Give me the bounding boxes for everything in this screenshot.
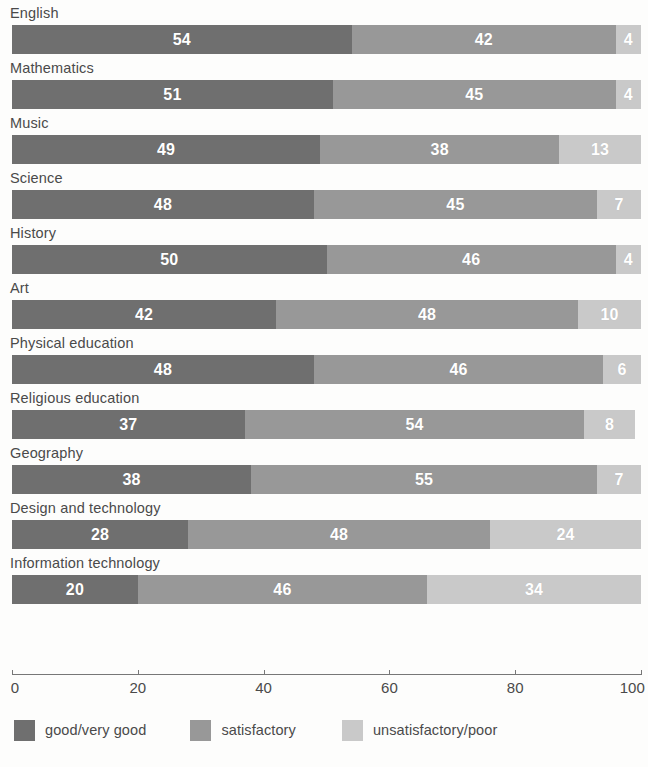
segment-satisfactory: 54 — [245, 410, 585, 439]
segment-good-very-good: 42 — [12, 300, 276, 329]
row-label: History — [10, 222, 56, 244]
row-label: Physical education — [10, 332, 134, 354]
chart-row: History50464 — [0, 222, 648, 277]
segment-unsatisfactory-poor: 10 — [578, 300, 641, 329]
chart-row: Art424810 — [0, 277, 648, 332]
row-label: Information technology — [10, 552, 160, 574]
segment-unsatisfactory-poor: 8 — [584, 410, 634, 439]
segment-value: 42 — [135, 307, 153, 323]
chart-row: Science48457 — [0, 167, 648, 222]
segment-value: 48 — [330, 527, 348, 543]
chart-row: Design and technology284824 — [0, 497, 648, 552]
stacked-bar: 48457 — [12, 190, 641, 219]
stacked-bar: 48466 — [12, 355, 641, 384]
segment-unsatisfactory-poor: 6 — [603, 355, 641, 384]
chart-row: English54424 — [0, 2, 648, 57]
segment-good-very-good: 28 — [12, 520, 188, 549]
segment-value: 46 — [273, 582, 291, 598]
stacked-bar: 204634 — [12, 575, 641, 604]
segment-value: 13 — [591, 142, 609, 158]
x-axis-tick-label: 0 — [11, 679, 19, 696]
legend-label: satisfactory — [221, 722, 296, 738]
row-label: Religious education — [10, 387, 139, 409]
segment-value: 28 — [91, 527, 109, 543]
chart-row: Religious education37548 — [0, 387, 648, 442]
stacked-bar: 493813 — [12, 135, 641, 164]
segment-good-very-good: 48 — [12, 190, 314, 219]
segment-unsatisfactory-poor: 7 — [597, 190, 641, 219]
stacked-bar: 424810 — [12, 300, 641, 329]
x-axis-tick-label: 60 — [381, 679, 398, 696]
legend-swatch — [342, 720, 363, 741]
segment-value: 45 — [446, 197, 464, 213]
segment-value: 55 — [415, 472, 433, 488]
legend-item: unsatisfactory/poor — [342, 720, 497, 741]
segment-value: 7 — [614, 472, 623, 488]
segment-value: 10 — [600, 307, 618, 323]
chart-row: Mathematics51454 — [0, 57, 648, 112]
chart-legend: good/very goodsatisfactoryunsatisfactory… — [14, 718, 497, 742]
segment-good-very-good: 48 — [12, 355, 314, 384]
segment-value: 6 — [618, 362, 627, 378]
segment-satisfactory: 46 — [327, 245, 616, 274]
segment-value: 45 — [465, 87, 483, 103]
row-label: Design and technology — [10, 497, 161, 519]
x-axis-tick — [641, 670, 642, 675]
segment-value: 48 — [154, 362, 172, 378]
segment-unsatisfactory-poor: 13 — [559, 135, 641, 164]
legend-label: unsatisfactory/poor — [373, 722, 497, 738]
segment-value: 54 — [173, 32, 191, 48]
segment-satisfactory: 38 — [320, 135, 559, 164]
x-axis-tick-label: 40 — [255, 679, 272, 696]
x-axis-tick-label: 100 — [620, 679, 645, 696]
segment-value: 48 — [418, 307, 436, 323]
x-axis-tick-label: 80 — [507, 679, 524, 696]
segment-satisfactory: 48 — [188, 520, 490, 549]
segment-value: 4 — [624, 87, 633, 103]
chart-row: Physical education48466 — [0, 332, 648, 387]
segment-good-very-good: 49 — [12, 135, 320, 164]
segment-good-very-good: 54 — [12, 25, 352, 54]
chart-row: Music493813 — [0, 112, 648, 167]
x-axis-tick — [264, 670, 265, 675]
segment-value: 38 — [431, 142, 449, 158]
segment-unsatisfactory-poor: 7 — [597, 465, 641, 494]
segment-value: 46 — [449, 362, 467, 378]
legend-item: good/very good — [14, 720, 146, 741]
segment-satisfactory: 46 — [138, 575, 427, 604]
segment-value: 34 — [525, 582, 543, 598]
x-axis-tick-label: 20 — [129, 679, 146, 696]
stacked-bar: 38557 — [12, 465, 641, 494]
x-axis-line — [12, 674, 641, 675]
segment-unsatisfactory-poor: 34 — [427, 575, 641, 604]
segment-value: 50 — [160, 252, 178, 268]
legend-swatch — [190, 720, 211, 741]
stacked-bar: 37548 — [12, 410, 641, 439]
row-label: Science — [10, 167, 63, 189]
legend-item: satisfactory — [190, 720, 296, 741]
stacked-bar: 50464 — [12, 245, 641, 274]
segment-good-very-good: 20 — [12, 575, 138, 604]
segment-satisfactory: 42 — [352, 25, 616, 54]
x-axis-tick — [389, 670, 390, 675]
stacked-bar-chart: English54424Mathematics51454Music493813S… — [0, 0, 648, 767]
segment-value: 51 — [163, 87, 181, 103]
legend-label: good/very good — [45, 722, 146, 738]
x-axis: 020406080100 — [12, 674, 641, 714]
legend-swatch — [14, 720, 35, 741]
x-axis-tick — [515, 670, 516, 675]
chart-row: Information technology204634 — [0, 552, 648, 607]
segment-value: 4 — [624, 252, 633, 268]
segment-value: 4 — [624, 32, 633, 48]
stacked-bar: 54424 — [12, 25, 641, 54]
row-label: Geography — [10, 442, 83, 464]
chart-row: Geography38557 — [0, 442, 648, 497]
segment-satisfactory: 45 — [314, 190, 597, 219]
chart-rows: English54424Mathematics51454Music493813S… — [0, 2, 648, 607]
row-label: English — [10, 2, 59, 24]
row-label: Mathematics — [10, 57, 94, 79]
row-label: Music — [10, 112, 49, 134]
segment-value: 38 — [122, 472, 140, 488]
segment-value: 48 — [154, 197, 172, 213]
segment-value: 20 — [66, 582, 84, 598]
